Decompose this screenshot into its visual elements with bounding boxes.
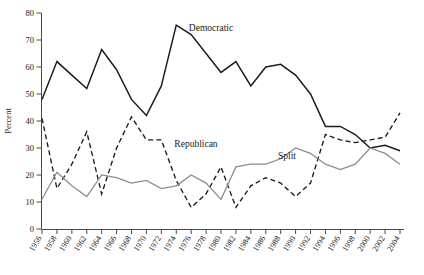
x-tick-label: 1972 (147, 234, 163, 253)
x-tick-label: 2004 (385, 234, 401, 253)
y-tick-label: 80 (26, 8, 35, 18)
series-line-democratic (42, 25, 400, 151)
x-tick-label: 1964 (87, 234, 103, 253)
y-tick-label: 20 (26, 170, 35, 180)
x-tick-label: 1978 (191, 234, 207, 253)
x-tick-label: 1968 (117, 234, 133, 253)
series-line-split (42, 148, 400, 199)
y-tick-label: 40 (26, 116, 35, 126)
y-tick-label: 50 (26, 89, 35, 99)
y-tick-label: 30 (26, 143, 35, 153)
x-tick-label: 1992 (296, 234, 312, 253)
line-chart: 0102030405060708019561958196019621964196… (0, 0, 424, 275)
x-tick-label: 1976 (177, 234, 193, 253)
x-tick-label: 1996 (326, 234, 342, 253)
x-tick-label: 2000 (356, 234, 372, 253)
x-tick-label: 1994 (311, 234, 327, 253)
x-tick-label: 1966 (102, 234, 118, 253)
x-tick-label: 1980 (206, 234, 222, 253)
x-tick-label: 1998 (341, 234, 357, 253)
x-tick-label: 1974 (162, 234, 178, 253)
series-label-split: Split (278, 151, 296, 161)
x-tick-label: 1970 (132, 234, 148, 253)
series-label-democratic: Democratic (189, 23, 233, 33)
y-tick-label: 70 (26, 35, 35, 45)
x-tick-label: 2002 (370, 234, 386, 253)
x-tick-label: 1958 (42, 234, 58, 253)
series-line-republican (42, 113, 400, 207)
x-tick-label: 1962 (72, 234, 88, 253)
x-tick-label: 1988 (266, 234, 282, 253)
y-axis-title: Percent (3, 108, 13, 134)
chart-container: 0102030405060708019561958196019621964196… (0, 0, 424, 275)
y-tick-label: 60 (26, 62, 35, 72)
x-tick-label: 1984 (236, 234, 252, 253)
x-tick-label: 1986 (251, 234, 267, 253)
x-tick-label: 1956 (27, 234, 43, 253)
series-label-republican: Republican (174, 139, 218, 149)
x-tick-label: 1990 (281, 234, 297, 253)
y-tick-label: 0 (30, 224, 34, 234)
x-tick-label: 1960 (57, 234, 73, 253)
y-tick-label: 10 (26, 197, 35, 207)
x-tick-label: 1982 (221, 234, 237, 253)
